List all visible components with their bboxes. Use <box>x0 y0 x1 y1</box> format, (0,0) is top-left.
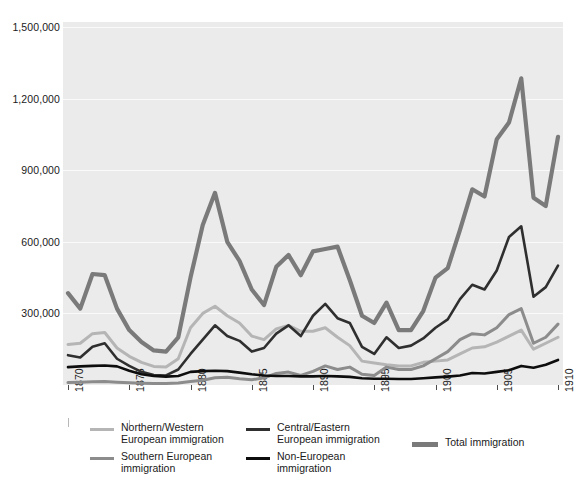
legend-item-label: Non-European immigration <box>277 451 345 474</box>
x-axis-tick-mark <box>497 385 498 390</box>
y-axis-tick-label: 600,000 <box>21 236 60 248</box>
x-axis-tick-label: 1910 <box>563 368 575 392</box>
x-axis-tick-label: 1885 <box>257 368 269 392</box>
x-axis-tick-label: 1905 <box>502 368 514 392</box>
x-axis-tick-label: 1880 <box>196 368 208 392</box>
x-axis-tick-mark <box>68 385 69 390</box>
chart-figure: 1,500,0001,200,000900,000600,000300,000 … <box>0 0 579 491</box>
x-axis-tick-mark <box>252 385 253 390</box>
x-axis-tick-label: 1890 <box>318 368 330 392</box>
gridline-1200000 <box>63 99 563 100</box>
legend-swatch-icon <box>246 457 270 460</box>
legend-item[interactable]: Central/Eastern European immigration <box>246 422 380 445</box>
x-axis-tick-mark <box>129 385 130 390</box>
legend-item-label: Central/Eastern European immigration <box>277 422 380 445</box>
plot-area-background <box>63 22 563 385</box>
x-axis-tick-label: 1900 <box>441 368 453 392</box>
legend-swatch-icon <box>90 428 114 431</box>
legend-item[interactable]: Non-European immigration <box>246 451 345 474</box>
gridline-900000 <box>63 170 563 171</box>
legend-swatch-icon <box>90 457 114 460</box>
y-axis-tick-label: 1,200,000 <box>12 93 60 105</box>
x-axis-tick-mark <box>313 385 314 390</box>
x-axis-tick-label: 1875 <box>134 368 146 392</box>
x-axis-tick-label: 1895 <box>379 368 391 392</box>
legend-swatch-icon <box>246 428 270 431</box>
gridline-600000 <box>63 242 563 243</box>
gridline-300000 <box>63 313 563 314</box>
legend-item[interactable]: Total immigration <box>412 437 524 449</box>
y-axis-tick-label: 900,000 <box>21 164 60 176</box>
y-axis-tick-label: 300,000 <box>21 307 60 319</box>
x-axis-tick-mark <box>436 385 437 390</box>
legend-item[interactable]: Southern European immigration <box>90 451 212 474</box>
y-axis-tick-label: 1,500,000 <box>12 21 60 33</box>
gridline-1500000 <box>63 27 563 28</box>
x-axis-tick-label: 1870 <box>73 368 85 392</box>
legend-swatch-icon <box>412 442 438 447</box>
legend-item[interactable]: Northern/Western European immigration <box>90 422 224 445</box>
legend-item-label: Southern European immigration <box>121 451 212 474</box>
axis-stub-mark-left <box>68 418 69 427</box>
legend-item-label: Northern/Western European immigration <box>121 422 224 445</box>
x-axis-tick-mark <box>558 385 559 390</box>
x-axis-tick-mark <box>374 385 375 390</box>
x-axis-tick-mark <box>191 385 192 390</box>
legend-item-label: Total immigration <box>445 437 524 449</box>
chart-legend: Northern/Western European immigrationSou… <box>90 420 560 486</box>
